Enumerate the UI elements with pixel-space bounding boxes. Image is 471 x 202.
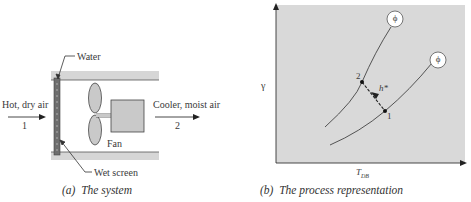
plot-area [276, 5, 465, 163]
x-axis-label: TDB [356, 168, 369, 179]
state-point-2 [360, 80, 364, 84]
phi-label-upper: ϕ [391, 14, 399, 23]
process-label: h* [379, 84, 388, 93]
process-chart [0, 0, 471, 202]
phi-label-lower: ϕ [434, 55, 442, 64]
caption-b-text: The process representation [279, 184, 403, 196]
point-1-label: 1 [387, 112, 392, 121]
caption-b: (b) The process representation [260, 185, 403, 197]
point-2-label: 2 [356, 72, 361, 81]
y-axis-label: γ [261, 81, 265, 91]
x-axis-subscript: DB [361, 173, 369, 179]
caption-b-letter: (b) [260, 184, 273, 196]
